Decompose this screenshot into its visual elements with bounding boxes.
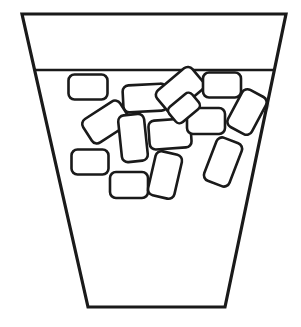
block-center — [148, 118, 192, 150]
block-top-left — [69, 75, 108, 100]
block-top-right — [203, 73, 241, 98]
block-mid-vertical — [118, 113, 149, 162]
block-bottom-left — [110, 172, 148, 198]
blocks-in-container-diagram: Blocks inside a tapered container — [0, 0, 301, 327]
block-lower-left — [72, 150, 109, 175]
figure-root: Blocks inside a tapered container — [0, 0, 301, 327]
